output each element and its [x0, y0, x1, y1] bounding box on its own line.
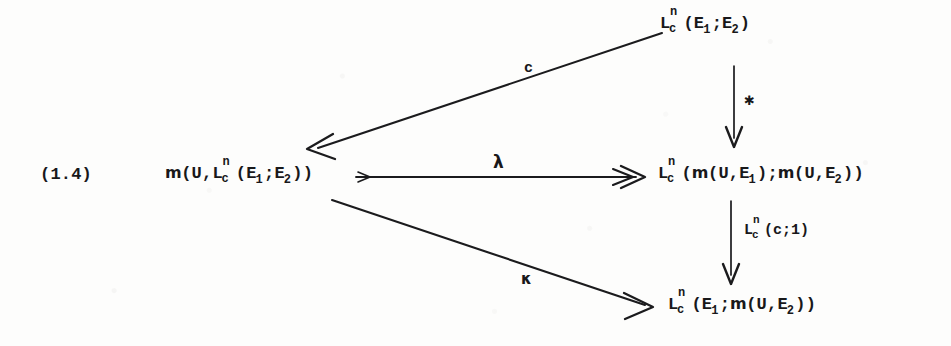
l-operator-left: Lnc — [212, 165, 222, 182]
superscript-n: n — [753, 214, 760, 226]
fraktur-m-icon: m — [778, 163, 794, 182]
paren-close: ) — [853, 164, 863, 183]
node-left: m(U,Lnc(E1;E2)) — [165, 165, 313, 182]
subscript-c: c — [221, 173, 228, 185]
node-bottom-right: Lnc(E1;m(U,E2)) — [668, 296, 816, 313]
l-operator-label: Lnc — [744, 222, 753, 239]
fraktur-m-icon: m — [692, 163, 708, 182]
paren-open: ( — [683, 14, 693, 33]
paren-open: ( — [691, 295, 701, 314]
separator: ; — [264, 164, 274, 183]
arg1-subscript: 1 — [749, 173, 756, 187]
fraktur-m-icon: m — [165, 163, 181, 182]
arg1-subscript: 1 — [703, 23, 710, 37]
separator: ; — [712, 14, 722, 33]
arrow-label-kappa: κ — [521, 270, 532, 288]
node-top-right: Lnc(E1;E2) — [660, 15, 750, 32]
fraktur-m-icon: m — [730, 294, 746, 313]
node-middle-right: Lnc(m(U,E1);m(U,E2)) — [658, 165, 864, 182]
arrow-c — [307, 33, 662, 159]
paren-close: ) — [740, 14, 750, 33]
l-operator-top-right: Lnc — [660, 15, 670, 32]
superscript-n: n — [222, 156, 229, 168]
arg2-prefix: (U,E — [794, 164, 836, 183]
arg2-prefix: (U,E — [746, 295, 788, 314]
arrow-label-lambda: λ — [493, 152, 504, 172]
l-operator-bottom-right: Lnc — [668, 296, 678, 313]
arg1-subscript: 1 — [256, 173, 263, 187]
paren-close: )) — [292, 164, 313, 183]
arrow-label-star: ✱ — [744, 93, 755, 108]
subscript-c: c — [669, 23, 676, 35]
arrow-lnc1 — [723, 201, 739, 284]
arg2-subscript: 2 — [731, 23, 738, 37]
separator: ; — [720, 295, 730, 314]
paren-open: ( — [236, 164, 246, 183]
arrow-kappa — [332, 200, 653, 319]
arg2-subscript: 2 — [835, 173, 842, 187]
paren-close: ) — [806, 295, 816, 314]
node-left-prefix: (U, — [181, 164, 212, 183]
arg2-subscript: 2 — [787, 304, 794, 318]
arg1-suffix: ) — [757, 164, 767, 183]
subscript-c: c — [752, 229, 759, 241]
superscript-n: n — [678, 287, 685, 299]
arg2-subscript: 2 — [284, 173, 291, 187]
subscript-c: c — [677, 304, 684, 316]
paren-open: ( — [681, 164, 691, 183]
arrow-label-lnc1: Lnc(c;1) — [744, 222, 809, 239]
diagram-page: (1.4) Lnc(E1;E2) m(U,Lnc(E1;E2)) Lnc(m(U… — [0, 0, 951, 346]
arrow-label-c: c — [524, 60, 533, 77]
subscript-c: c — [667, 173, 674, 185]
label-arguments: (c;1) — [764, 222, 809, 239]
l-operator-middle-right: Lnc — [658, 165, 668, 182]
arrow-star — [726, 66, 742, 147]
arg1-subscript: 1 — [711, 304, 718, 318]
arg2-suffix: ) — [843, 164, 853, 183]
separator: ; — [767, 164, 777, 183]
superscript-n: n — [668, 156, 675, 168]
equation-number: (1.4) — [40, 165, 92, 184]
arg1-prefix: (U,E — [708, 164, 750, 183]
superscript-n: n — [670, 6, 677, 18]
arg2-suffix: ) — [795, 295, 805, 314]
